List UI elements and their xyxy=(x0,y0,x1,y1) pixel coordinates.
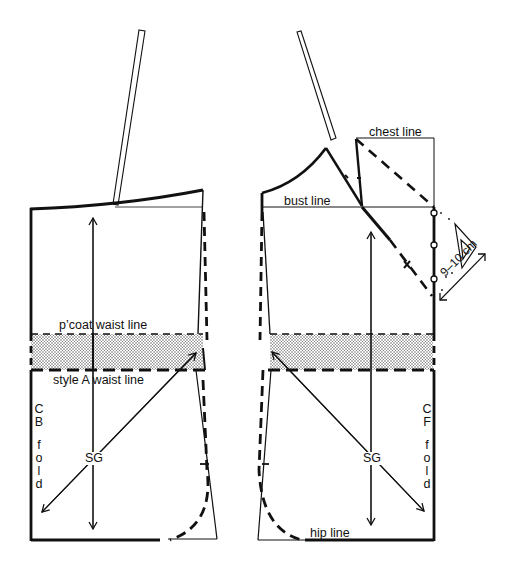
back-pattern-piece xyxy=(30,190,217,541)
chest-line-label: chest line xyxy=(369,126,422,139)
fold-letter: B xyxy=(34,416,44,429)
bust-line-label: bust line xyxy=(284,195,331,208)
cf-fold-label: C F f o l d xyxy=(422,403,432,491)
measure-point xyxy=(431,276,437,282)
hip-line-label: hip line xyxy=(310,527,350,540)
measure-point xyxy=(431,210,437,216)
ruler-icon xyxy=(113,30,145,205)
style-a-waist-line-label: style A waist line xyxy=(53,374,144,387)
ruler-icon xyxy=(297,31,336,140)
fold-letter: d xyxy=(34,478,44,491)
fold-letter: F xyxy=(422,416,432,429)
pcoat-waist-line-label: p’coat waist line xyxy=(59,319,147,332)
cb-fold-label: C B f o l d xyxy=(34,403,44,491)
measure-point xyxy=(431,242,437,248)
pattern-diagram xyxy=(0,0,510,575)
fold-letter: d xyxy=(422,478,432,491)
waist-band-shading xyxy=(270,334,433,370)
back-grain-label: SG xyxy=(85,452,103,465)
front-grain-label: SG xyxy=(363,452,381,465)
waist-band-shading xyxy=(31,334,203,370)
